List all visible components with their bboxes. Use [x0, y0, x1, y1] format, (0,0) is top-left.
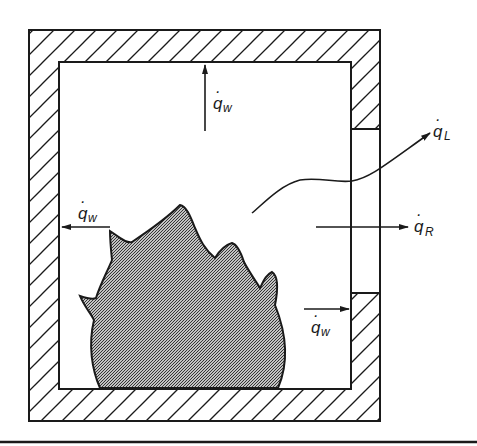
top-wall — [29, 30, 380, 62]
q-r-dot: · — [416, 206, 421, 223]
q-w-top-subscript: w — [223, 101, 233, 115]
q-r-subscript: R — [425, 225, 434, 239]
q-w-left-dot: · — [80, 193, 85, 210]
window-opening — [351, 129, 380, 293]
compartment-fire-diagram: q · w q · w q · w q · R q · L — [0, 0, 477, 446]
q-w-left-subscript: w — [88, 211, 98, 225]
q-w-top-dot: · — [215, 83, 220, 100]
q-w-right-dot: · — [313, 307, 318, 324]
q-l-dot: · — [435, 111, 440, 128]
bottom-wall — [29, 389, 380, 421]
right-wall-upper — [351, 62, 380, 129]
q-w-right-subscript: w — [321, 325, 331, 339]
left-wall — [29, 62, 59, 389]
q-l-subscript: L — [444, 129, 451, 143]
right-wall-lower — [351, 293, 380, 389]
